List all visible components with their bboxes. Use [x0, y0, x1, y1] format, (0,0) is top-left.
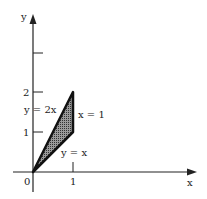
y-axis-label: y: [20, 11, 27, 22]
label-y-equals-2x: y = 2x: [23, 104, 57, 115]
region-diagram: y 2 1 x 1 0 y = 2x x = 1 y = x: [0, 0, 207, 199]
y-tick-label-1: 1: [23, 127, 29, 138]
label-y-equals-x: y = x: [60, 147, 87, 158]
x-tick-label-1: 1: [70, 176, 76, 187]
y-axis-arrow-icon: [30, 14, 37, 24]
x-axis-label: x: [187, 177, 193, 188]
y-tick-label-2: 2: [23, 87, 29, 98]
x-axis-arrow-icon: [187, 169, 197, 176]
origin-label: 0: [24, 176, 30, 187]
label-x-equals-1: x = 1: [78, 109, 105, 120]
